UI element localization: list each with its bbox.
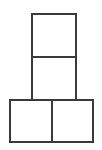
- figure-canvas: [0, 0, 102, 150]
- bottom-right-square-fill: [52, 100, 93, 142]
- top-square-fill: [32, 14, 76, 57]
- bottom-left-square-fill: [10, 100, 52, 142]
- square-stack-figure: [0, 0, 102, 150]
- middle-square-fill: [32, 57, 76, 100]
